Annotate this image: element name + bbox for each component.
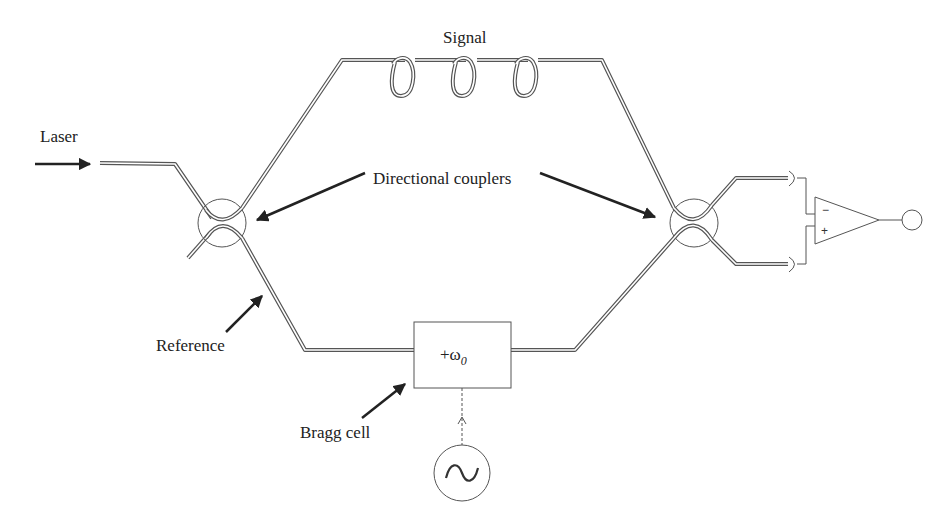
amplifier-wiring [797,178,815,264]
svg-text:+: + [821,224,828,238]
couplers-arrow-right [540,173,655,217]
photodetector-bottom [789,257,795,272]
signal-label: Signal [443,28,487,47]
laser-input-fiber [100,163,212,218]
bragg-cell: +ω0 [414,322,511,388]
photodetector-top [789,171,795,186]
output-terminal [902,210,922,230]
interferometer-diagram: Laser [0,0,952,525]
output-fibers [712,178,788,264]
reference-arrow [226,296,262,332]
coil-2 [453,58,474,96]
coupler-left [198,199,246,247]
bragg-label: Bragg cell [300,423,371,442]
couplers-label: Directional couplers [373,169,511,188]
svg-text:−: − [822,203,829,217]
diff-amplifier: − + [815,197,879,244]
coil-1 [392,58,413,96]
signal-coils [392,58,536,96]
laser-label: Laser [40,127,78,146]
coil-3 [515,58,536,96]
reference-label: Reference [156,336,225,355]
couplers-arrow-left [257,173,365,220]
oscillator [434,445,490,501]
bragg-arrow [362,384,405,418]
coupler-right [670,199,718,247]
